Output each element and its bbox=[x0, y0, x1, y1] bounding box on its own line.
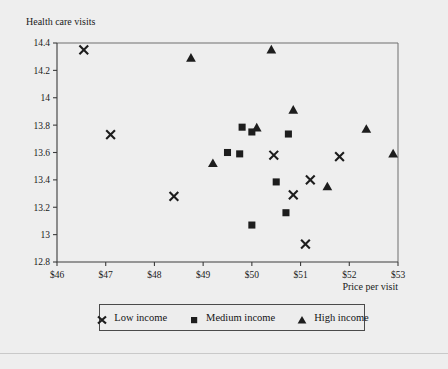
square-marker-icon bbox=[191, 317, 197, 323]
triangle-marker-icon bbox=[288, 105, 298, 114]
legend-glyph bbox=[295, 312, 309, 324]
square-marker-icon bbox=[285, 130, 292, 137]
triangle-marker-icon bbox=[186, 53, 196, 62]
legend-entry-medium-income[interactable]: Medium income bbox=[187, 312, 275, 324]
x-tick-label: $47 bbox=[99, 270, 114, 280]
x-tick-label: $53 bbox=[391, 270, 406, 280]
x-axis-title: Price per visit bbox=[342, 281, 398, 292]
square-marker-icon bbox=[248, 222, 255, 229]
x-marker-icon bbox=[98, 316, 106, 323]
y-tick-label: 14.4 bbox=[33, 38, 50, 48]
legend-entry-label: Medium income bbox=[206, 312, 275, 323]
x-tick-label: $51 bbox=[293, 270, 308, 280]
legend-entry-label: Low income bbox=[114, 312, 167, 323]
x-tick-label: $49 bbox=[196, 270, 211, 280]
y-tick-label: 12.8 bbox=[33, 257, 50, 267]
legend-entry-high-income[interactable]: High income bbox=[295, 312, 369, 324]
x-marker-icon bbox=[301, 240, 310, 249]
legend-glyph bbox=[95, 312, 109, 324]
square-marker-icon bbox=[282, 209, 289, 216]
scatter-plot: 12.81313.213.413.613.81414.214.4$46$47$4… bbox=[0, 0, 448, 341]
square-marker-icon bbox=[239, 124, 246, 131]
series-low-income bbox=[79, 45, 343, 248]
legend-entry-label: High income bbox=[314, 312, 369, 323]
legend-glyph bbox=[187, 312, 201, 324]
triangle-marker-icon bbox=[322, 182, 332, 191]
triangle-marker-icon bbox=[208, 158, 218, 167]
data-markers-group bbox=[79, 45, 398, 249]
y-tick-label: 13.6 bbox=[33, 148, 50, 158]
y-tick-label: 14 bbox=[41, 93, 51, 103]
x-marker-icon bbox=[289, 191, 298, 200]
triangle-marker-icon bbox=[361, 124, 371, 133]
square-marker-icon bbox=[273, 178, 280, 185]
x-tick-label: $50 bbox=[245, 270, 260, 280]
x-marker-icon-wrap bbox=[95, 314, 109, 326]
x-marker-icon bbox=[269, 151, 278, 160]
x-marker-icon bbox=[79, 45, 88, 54]
square-marker-icon bbox=[236, 150, 243, 157]
axes-group: 12.81313.213.413.613.81414.214.4$46$47$4… bbox=[33, 38, 405, 280]
triangle-marker-icon bbox=[298, 316, 307, 324]
triangle-marker-icon bbox=[266, 45, 276, 54]
y-tick-label: 13.2 bbox=[33, 203, 50, 213]
y-tick-label: 13 bbox=[41, 230, 51, 240]
square-marker-icon bbox=[224, 149, 231, 156]
y-tick-label: 13.4 bbox=[33, 175, 50, 185]
series-medium-income bbox=[224, 124, 292, 229]
x-marker-icon bbox=[335, 152, 344, 161]
x-marker-icon bbox=[106, 130, 115, 139]
y-tick-label: 13.8 bbox=[33, 121, 50, 131]
triangle-marker-icon bbox=[388, 149, 398, 158]
chart-figure: 12.81313.213.413.613.81414.214.4$46$47$4… bbox=[0, 0, 448, 341]
square-marker-icon-wrap bbox=[187, 314, 201, 326]
triangle-marker-icon bbox=[252, 123, 262, 132]
series-high-income bbox=[186, 45, 398, 191]
legend-entry-low-income[interactable]: Low income bbox=[95, 312, 167, 324]
x-tick-label: $48 bbox=[147, 270, 162, 280]
x-marker-icon bbox=[170, 192, 179, 201]
x-tick-label: $52 bbox=[342, 270, 357, 280]
x-marker-icon bbox=[306, 176, 315, 185]
page-separator-rule bbox=[0, 353, 448, 354]
chart-legend: Low incomeMedium incomeHigh income bbox=[99, 304, 365, 331]
x-tick-label: $46 bbox=[50, 270, 65, 280]
triangle-marker-icon-wrap bbox=[295, 314, 309, 326]
y-axis-title: Health care visits bbox=[26, 16, 96, 27]
y-tick-label: 14.2 bbox=[33, 66, 50, 76]
